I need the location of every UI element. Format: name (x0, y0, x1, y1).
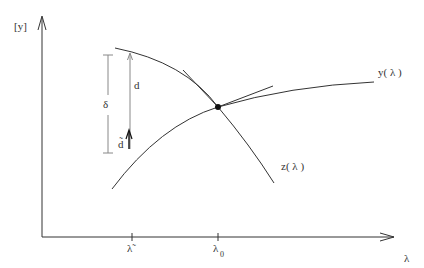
z-curve-label: z( λ ) (281, 160, 304, 173)
tick-label-lambda-0-sub: 0 (220, 250, 224, 259)
y-axis (38, 16, 46, 237)
x-axis-label: λ (404, 252, 410, 264)
y-curve-label: y( λ ) (378, 66, 402, 79)
y-axis-label: [y] (14, 20, 27, 32)
d-label: d (134, 79, 140, 91)
tick-label-lambda-0: λ (213, 242, 219, 254)
tick-label-lambda-tilde: λ̃ (127, 242, 136, 254)
tangent-z (183, 70, 218, 107)
y-curve (112, 82, 374, 189)
delta-label: δ (103, 98, 108, 110)
diagram: [y] λ λ̃ λ 0 y( λ ) z( λ ) δ d d̃ (0, 0, 424, 268)
intersection-point (215, 104, 221, 110)
d-tilde-label: d̃ (118, 137, 124, 150)
tangent-y (218, 86, 273, 107)
z-curve (115, 48, 274, 183)
